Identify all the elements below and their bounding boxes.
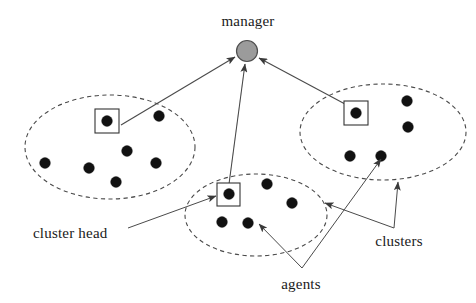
cluster-head-leader-line — [128, 196, 216, 228]
cluster-middle-outline — [185, 174, 327, 256]
cluster-right-nodes — [344, 96, 413, 162]
manager-node-group[interactable] — [237, 41, 258, 62]
clusters-leader-line-left — [325, 203, 394, 228]
agent-dot[interactable] — [40, 158, 51, 169]
manager-node[interactable] — [237, 41, 258, 62]
agents-leader-line-left — [259, 224, 302, 268]
cluster-head-dot-left[interactable] — [102, 116, 113, 127]
agent-dot[interactable] — [217, 217, 228, 228]
agent-dot[interactable] — [151, 158, 162, 169]
agent-dot[interactable] — [122, 146, 133, 157]
agents-leader-line-right — [302, 159, 381, 268]
agent-dot[interactable] — [243, 218, 254, 229]
clusters-leader-line-up — [394, 182, 398, 228]
agents-label: agents — [281, 276, 321, 292]
agent-dot[interactable] — [345, 151, 356, 162]
cluster-head-dot-right[interactable] — [351, 108, 362, 119]
diagram-canvas: manager — [0, 0, 476, 303]
cluster-left-nodes — [40, 109, 165, 187]
cluster-head-dot-middle[interactable] — [224, 189, 235, 200]
agent-dot[interactable] — [84, 163, 95, 174]
agent-dot[interactable] — [154, 111, 165, 122]
uplink-middle-to-manager — [229, 64, 245, 184]
agent-dot[interactable] — [262, 179, 273, 190]
clusters-label: clusters — [375, 233, 422, 249]
agent-dot[interactable] — [111, 177, 122, 188]
manager-label: manager — [221, 13, 274, 29]
cluster-right-outline — [300, 84, 466, 180]
cluster-head-label: cluster head — [33, 225, 108, 241]
uplink-left-to-manager — [121, 57, 235, 125]
agent-dot[interactable] — [287, 198, 298, 209]
agent-dot[interactable] — [402, 96, 413, 107]
cluster-middle-nodes — [217, 179, 298, 229]
cluster-network-diagram: manager — [0, 0, 476, 303]
uplink-right-to-manager — [259, 58, 345, 104]
agent-dot[interactable] — [403, 122, 414, 133]
